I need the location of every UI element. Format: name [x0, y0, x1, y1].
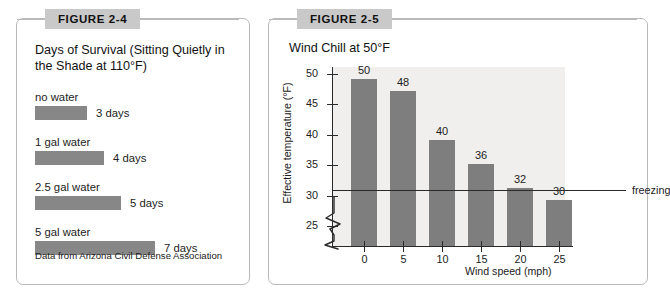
x-tick-5: 5 [403, 241, 404, 252]
x-tick-label: 0 [361, 253, 367, 265]
bar-wind-10: 40 [429, 140, 455, 246]
bar-value: 4 days [113, 152, 146, 164]
figure-2-4-title: Days of Survival (Sitting Quietly in the… [35, 42, 235, 74]
y-tick-45: 45 [327, 104, 338, 105]
figure-2-5-panel: FIGURE 2-5 Wind Chill at 50°F 50 45 40 3… [268, 18, 648, 285]
y-tick-35: 35 [327, 165, 338, 166]
y-tick-label: 50 [306, 67, 318, 79]
bar-wind-5: 48 [390, 91, 416, 246]
y-tick-label: 25 [306, 219, 318, 231]
bar-row: 4 days [35, 151, 146, 165]
bar-label: 2.5 gal water [35, 181, 163, 193]
bar-value: 30 [553, 185, 565, 197]
x-tick-label: 25 [553, 253, 565, 265]
bar-value: 40 [436, 125, 448, 137]
bar-wind-15: 36 [468, 164, 494, 246]
figure-2-4-body: Days of Survival (Sitting Quietly in the… [17, 19, 249, 284]
x-axis-label: Wind speed (mph) [465, 265, 552, 277]
x-tick-10: 10 [442, 241, 443, 252]
x-tick-label: 5 [400, 253, 406, 265]
y-tick-label: 30 [306, 189, 318, 201]
y-tick-40: 40 [327, 135, 338, 136]
bar-wind-0: 50 [351, 79, 377, 246]
bar-value: 32 [514, 173, 526, 185]
bar-group-no-water: no water 3 days [35, 91, 129, 120]
freezing-reference-line [332, 190, 626, 191]
x-tick-25: 25 [559, 241, 560, 252]
x-tick-20: 20 [520, 241, 521, 252]
bar-value: 5 days [130, 197, 163, 209]
bar-no-water [35, 106, 87, 120]
bar-2-5-gal-water [35, 196, 121, 210]
figure-2-4-source: Data from Arizona Civil Defense Associat… [35, 250, 222, 261]
figure-2-5-body: Wind Chill at 50°F 50 45 40 35 30 25 [269, 19, 647, 284]
bar-group-2-5-gal-water: 2.5 gal water 5 days [35, 181, 163, 210]
bar-wind-25: 30 [546, 200, 572, 246]
figure-2-5-title: Wind Chill at 50°F [289, 41, 390, 55]
x-tick-label: 15 [475, 253, 487, 265]
x-tick-label: 20 [514, 253, 526, 265]
y-tick-label: 40 [306, 128, 318, 140]
y-tick-50: 50 [327, 74, 338, 75]
bar-wind-20: 32 [507, 188, 533, 246]
wind-chill-plot: 50 45 40 35 30 25 50 48 [332, 67, 565, 247]
y-tick-label: 45 [306, 97, 318, 109]
bar-label: no water [35, 91, 129, 103]
x-tick-0: 0 [364, 241, 365, 252]
x-tick-label: 10 [436, 253, 448, 265]
bar-row: 5 days [35, 196, 163, 210]
bar-label: 5 gal water [35, 226, 197, 238]
bar-value: 3 days [96, 107, 129, 119]
bar-value: 50 [358, 64, 370, 76]
bar-row: 3 days [35, 106, 129, 120]
bar-value: 48 [397, 76, 409, 88]
axis-break-icon [321, 195, 347, 251]
x-tick-15: 15 [481, 241, 482, 252]
freezing-label: freezing [632, 184, 670, 196]
bar-label: 1 gal water [35, 136, 146, 148]
x-axis [332, 246, 573, 247]
bar-group-1-gal-water: 1 gal water 4 days [35, 136, 146, 165]
bar-value: 36 [475, 149, 487, 161]
y-axis-label: Effective temperature (°F) [281, 68, 293, 218]
y-tick-label: 35 [306, 158, 318, 170]
figure-2-4-panel: FIGURE 2-4 Days of Survival (Sitting Qui… [16, 18, 250, 285]
bar-1-gal-water [35, 151, 104, 165]
